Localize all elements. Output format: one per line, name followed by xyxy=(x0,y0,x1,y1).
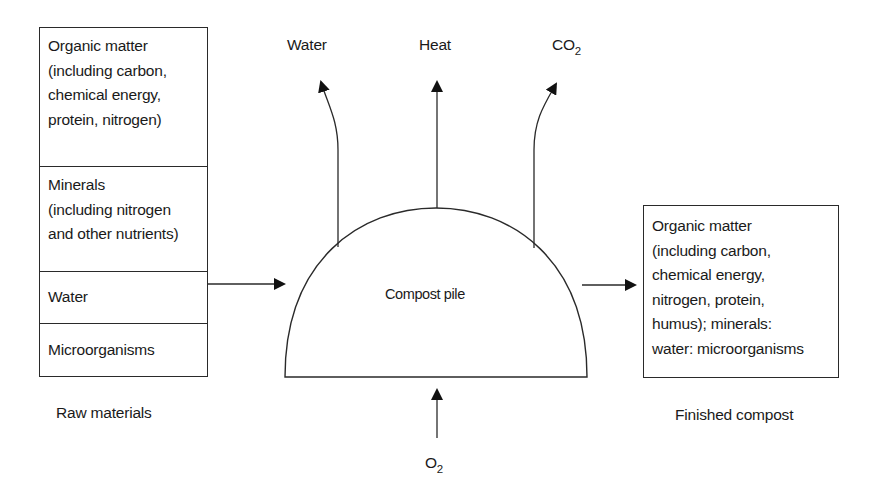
o2-main: O xyxy=(425,454,437,471)
finished-compost-caption: Finished compost xyxy=(675,406,793,424)
heat-output-label: Heat xyxy=(419,36,451,54)
raw-item-water: Water xyxy=(40,272,207,324)
raw-item-minerals: Minerals (including nitrogen and other n… xyxy=(40,167,207,272)
compost-pile-label: Compost pile xyxy=(385,286,465,302)
raw-item-organic-matter: Organic matter (including carbon, chemic… xyxy=(40,28,207,167)
raw-materials-box: Organic matter (including carbon, chemic… xyxy=(39,27,208,377)
co2-main: CO xyxy=(552,36,575,53)
co2-output-label: CO2 xyxy=(552,36,581,54)
arrow-water-out xyxy=(321,82,338,247)
raw-materials-caption: Raw materials xyxy=(56,404,152,422)
o2-subscript: 2 xyxy=(437,463,443,475)
co2-subscript: 2 xyxy=(575,45,581,57)
o2-input-label: O2 xyxy=(425,454,443,472)
arrow-co2-out xyxy=(534,84,556,248)
finished-compost-contents: Organic matter (including carbon, chemic… xyxy=(652,214,804,361)
water-output-label: Water xyxy=(287,36,327,54)
raw-item-microorganisms: Microorganisms xyxy=(40,324,207,378)
finished-compost-box: Organic matter (including carbon, chemic… xyxy=(643,205,839,378)
